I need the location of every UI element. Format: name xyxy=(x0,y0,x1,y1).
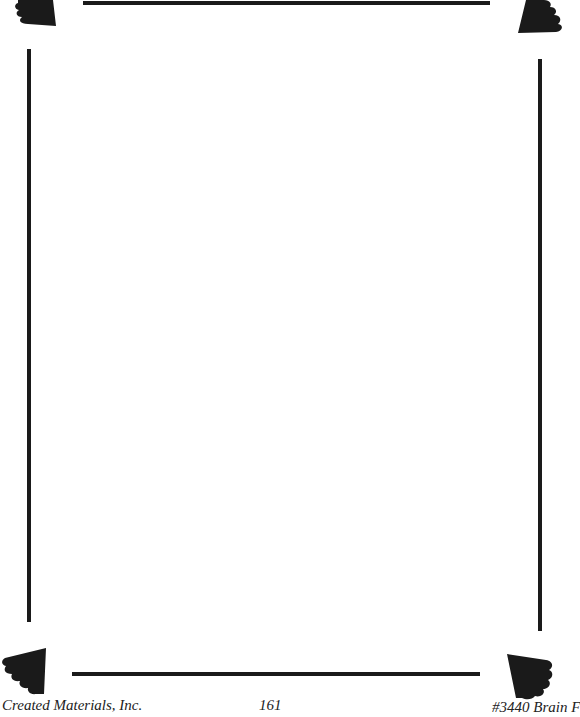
right-border-line xyxy=(538,59,542,631)
left-border-line xyxy=(27,49,31,622)
top-left-corner-ornament-icon xyxy=(10,0,60,28)
publisher-name: Created Materials, Inc. xyxy=(2,697,142,714)
top-right-corner-ornament-icon xyxy=(516,0,566,35)
page-number: 161 xyxy=(259,697,282,714)
bottom-right-corner-ornament-icon xyxy=(506,654,556,700)
bottom-border-line xyxy=(72,672,480,676)
product-code: #3440 Brain F xyxy=(492,699,580,716)
bottom-left-corner-ornament-icon xyxy=(0,648,50,696)
top-border-line xyxy=(83,1,490,5)
